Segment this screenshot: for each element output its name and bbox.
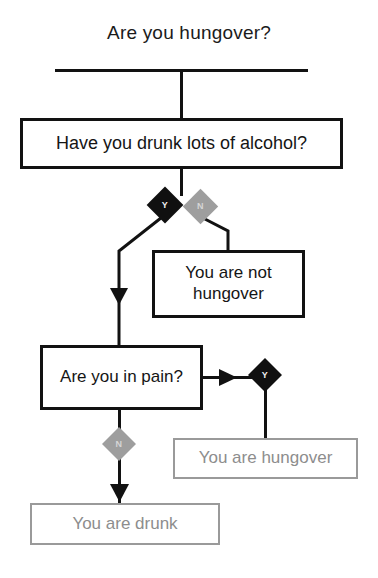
- decision-label-alcohol-yes: Y: [162, 200, 168, 209]
- arrowhead-yes-to-pain: [110, 288, 128, 305]
- node-hungover-outcome[interactable]: You are hungover: [173, 438, 358, 479]
- page-title: Are you hungover?: [0, 22, 378, 44]
- arrowhead-no-to-drunk: [110, 484, 129, 502]
- decision-label-alcohol-no: N: [197, 202, 204, 211]
- decision-label-pain-yes: Y: [262, 370, 268, 379]
- node-drunk-outcome[interactable]: You are drunk: [30, 503, 220, 545]
- decision-label-pain-no: N: [116, 440, 123, 449]
- node-alcohol-question[interactable]: Have you drunk lots of alcohol?: [20, 118, 343, 169]
- flowchart-canvas: Are you hungover? Have you drunk lots of…: [0, 0, 378, 578]
- arrowhead-pain-to-yes: [219, 369, 237, 386]
- node-not-hungover-outcome[interactable]: You are not hungover: [152, 250, 305, 318]
- node-pain-question[interactable]: Are you in pain?: [40, 345, 203, 410]
- edge-no-to-not-hungover: [201, 217, 228, 250]
